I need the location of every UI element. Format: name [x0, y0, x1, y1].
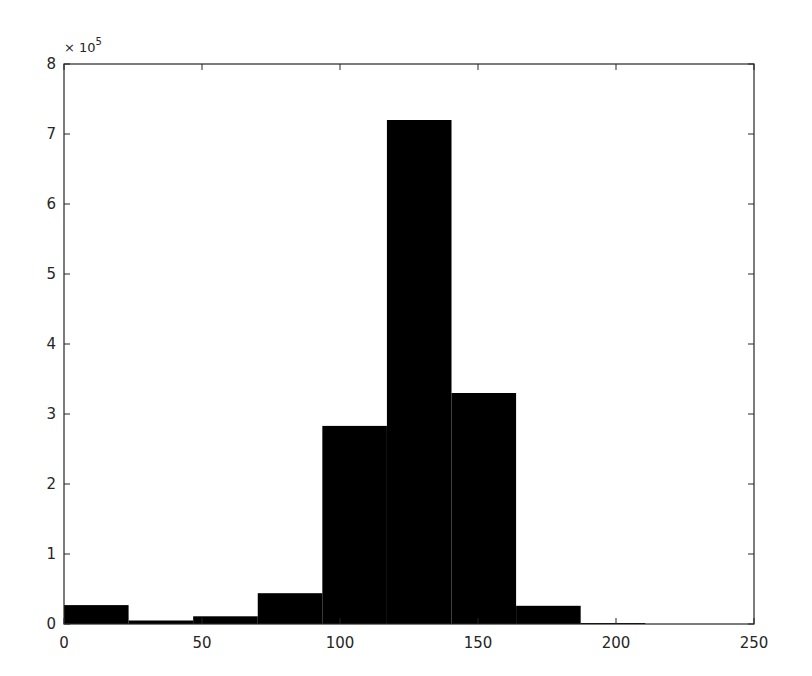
y-tick-label: 4 — [46, 335, 56, 353]
y-axis-multiplier: × 105 — [64, 36, 102, 55]
histogram-bar — [516, 606, 581, 624]
histogram-bar — [322, 426, 387, 624]
x-tick-label: 100 — [326, 634, 355, 652]
histogram-chart: 050100150200250 012345678 × 105 — [0, 0, 812, 676]
histogram-bars — [64, 120, 645, 624]
y-tick-label: 1 — [46, 545, 56, 563]
x-tick-label: 250 — [740, 634, 769, 652]
histogram-bar — [193, 616, 258, 624]
y-tick-label: 7 — [46, 125, 56, 143]
histogram-bar — [258, 593, 323, 624]
y-tick-label: 6 — [46, 195, 56, 213]
x-tick-label: 50 — [192, 634, 211, 652]
y-tick-label: 3 — [46, 405, 56, 423]
y-tick-label: 8 — [46, 55, 56, 73]
histogram-bar — [64, 605, 129, 624]
histogram-bar — [387, 120, 452, 624]
y-tick-label: 5 — [46, 265, 56, 283]
y-tick-label: 2 — [46, 475, 56, 493]
x-tick-label: 0 — [59, 634, 69, 652]
histogram-bar — [452, 393, 517, 624]
x-tick-label: 200 — [602, 634, 631, 652]
y-tick-label: 0 — [46, 615, 56, 633]
x-tick-label: 150 — [464, 634, 493, 652]
